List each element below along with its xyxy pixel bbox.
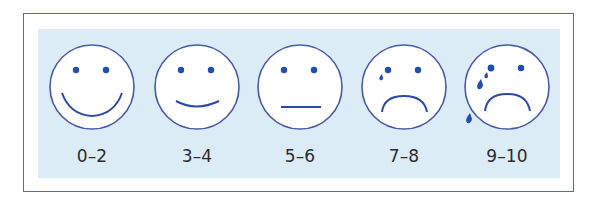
face-label-7-8: 7–8 (364, 146, 444, 166)
face-crying-icon (465, 45, 549, 129)
pain-face-scale: 0–2 3–4 5–6 7–8 9–10 (0, 0, 593, 203)
face-label-5-6: 5–6 (260, 146, 340, 166)
face-big-smile-icon (50, 45, 134, 129)
face-label-9-10: 9–10 (467, 146, 547, 166)
face-smile-icon (155, 45, 239, 129)
face-neutral-icon (258, 45, 342, 129)
face-label-0-2: 0–2 (52, 146, 132, 166)
face-frown-icon (362, 45, 446, 129)
tear-icon (466, 113, 472, 123)
face-label-3-4: 3–4 (157, 146, 237, 166)
